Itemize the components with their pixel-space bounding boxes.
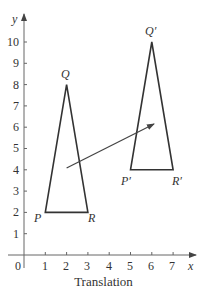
y-tick-label: 6: [13, 120, 19, 134]
vertex-label-p: P: [33, 211, 42, 225]
x-tick-label: 7: [169, 259, 175, 273]
triangle-pqr: [45, 85, 88, 213]
y-tick-label: 8: [13, 78, 19, 92]
y-tick-label: 5: [13, 141, 19, 155]
x-tick-label: 4: [106, 259, 112, 273]
x-tick-label: 6: [148, 259, 154, 273]
y-tick-label: 2: [13, 205, 19, 219]
vertex-label-q-prime: Q′: [145, 24, 157, 38]
vertex-label-r-prime: R′: [171, 174, 182, 188]
triangle-p-q-r-prime: [131, 42, 174, 170]
vertex-label-q: Q: [61, 67, 70, 81]
translation-arrow: [67, 124, 154, 168]
vertex-label-r: R: [87, 211, 96, 225]
coordinate-plane: 0 1 2 3 4 5 6 7 x 1 2 3 4 5 6 7 8 9 10 y…: [0, 0, 207, 299]
x-tick-label: 5: [127, 259, 133, 273]
x-tick-label: 3: [84, 259, 90, 273]
x-tick-label: 1: [42, 259, 48, 273]
x-axis-label: x: [187, 259, 194, 273]
x-tick-label: 2: [63, 259, 69, 273]
y-axis-label: y: [11, 12, 18, 26]
y-tick-label: 1: [13, 227, 19, 241]
y-tick-label: 9: [13, 56, 19, 70]
figure-caption: Translation: [0, 274, 207, 290]
y-tick-label: 7: [13, 99, 19, 113]
y-tick-label: 4: [13, 163, 19, 177]
y-tick-label: 10: [7, 35, 19, 49]
y-tick-label: 3: [13, 184, 19, 198]
vertex-label-p-prime: P′: [120, 174, 131, 188]
origin-label: 0: [15, 259, 21, 273]
